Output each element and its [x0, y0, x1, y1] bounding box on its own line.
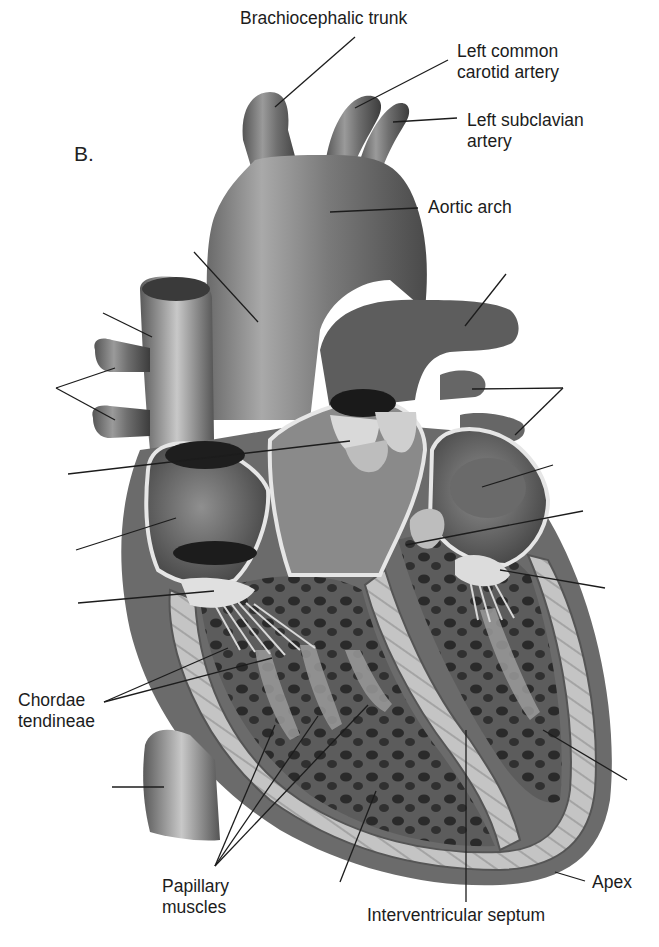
- label-left-subclavian-artery: Left subclavian artery: [467, 110, 584, 152]
- label-chordae-tendineae: Chordae tendineae: [18, 690, 95, 732]
- heart-diagram: B. Brachiocephalic trunk Left common car…: [0, 0, 659, 947]
- label-text-line2: muscles: [162, 897, 229, 918]
- right-pulmonary-vein-upper: [94, 338, 150, 372]
- label-text-line1: Papillary: [162, 876, 229, 897]
- label-text: Aortic arch: [428, 197, 512, 217]
- label-text-line1: Left common: [457, 41, 559, 62]
- label-text: Apex: [592, 872, 632, 892]
- right-pulmonary-vein-lower: [92, 406, 150, 439]
- label-text: Brachiocephalic trunk: [240, 8, 407, 28]
- label-interventricular-septum: Interventricular septum: [367, 905, 545, 926]
- left-atrium-inner: [450, 458, 526, 518]
- label-aortic-arch: Aortic arch: [428, 197, 512, 218]
- label-left-common-carotid-artery: Left common carotid artery: [457, 41, 559, 83]
- label-apex: Apex: [592, 872, 632, 893]
- label-text-line1: Left subclavian: [467, 110, 584, 131]
- right-pulmonary-veins-line-b-blank: [56, 388, 115, 420]
- label-text: Interventricular septum: [367, 905, 545, 925]
- left-pulmonary-vein-upper: [440, 370, 485, 400]
- label-brachiocephalic-trunk: Brachiocephalic trunk: [240, 8, 407, 29]
- left-common-carotid-line: [355, 60, 448, 108]
- right-pulmonary-veins-line-a-blank: [56, 368, 115, 388]
- svc-opening: [142, 277, 210, 301]
- label-papillary-muscles: Papillary muscles: [162, 876, 229, 918]
- left-pulmonary-veins-line-a-blank: [472, 388, 563, 389]
- apex-line: [555, 872, 585, 881]
- tricuspid-opening: [173, 541, 257, 565]
- superior-vena-cava: [140, 277, 214, 450]
- panel-letter: B.: [74, 142, 94, 166]
- label-text-line2: artery: [467, 131, 584, 152]
- brachiocephalic-trunk-line: [275, 37, 355, 107]
- label-text-line1: Chordae: [18, 690, 95, 711]
- label-text-line2: carotid artery: [457, 62, 559, 83]
- left-pulmonary-veins-line-b-blank: [515, 388, 563, 435]
- label-text-line2: tendineae: [18, 711, 95, 732]
